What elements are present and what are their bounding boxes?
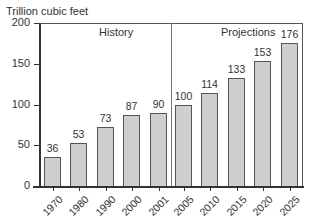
bar-value-label: 36 xyxy=(38,142,68,154)
x-axis xyxy=(33,186,304,188)
history-label: History xyxy=(99,26,133,38)
x-tick-label: 1980 xyxy=(66,193,91,218)
bar-2015 xyxy=(228,78,245,186)
y-tick-label: 0 xyxy=(0,179,30,191)
x-tick-label: 2015 xyxy=(224,193,249,218)
bar-value-label: 114 xyxy=(195,78,225,90)
y-tick-label: 100 xyxy=(0,98,30,110)
x-tick-label: 2025 xyxy=(277,193,302,218)
bar-1990 xyxy=(97,127,114,186)
x-tick-label: 1990 xyxy=(93,193,118,218)
bar-value-label: 53 xyxy=(64,128,94,140)
bar-value-label: 73 xyxy=(91,112,121,124)
x-tick-label: 2005 xyxy=(171,193,196,218)
x-tick-label: 1970 xyxy=(40,193,65,218)
bar-value-label: 133 xyxy=(222,63,252,75)
y-tick-label: 50 xyxy=(0,138,30,150)
bar-value-label: 153 xyxy=(248,46,278,58)
y-tick-label: 200 xyxy=(0,16,30,28)
bar-1970 xyxy=(44,157,61,186)
x-tick-label: 2010 xyxy=(197,193,222,218)
bar-2025 xyxy=(281,43,298,186)
bar-2010 xyxy=(201,93,218,186)
bar-2005 xyxy=(175,105,192,187)
bar-1980 xyxy=(70,143,87,186)
x-tick-label: 2000 xyxy=(119,193,144,218)
x-tick-label: 2001 xyxy=(146,193,171,218)
projections-label: Projections xyxy=(221,26,275,38)
bar-2000 xyxy=(123,115,140,186)
bar-value-label: 100 xyxy=(169,90,199,102)
bar-2001 xyxy=(150,113,167,186)
bar-value-label: 87 xyxy=(117,100,147,112)
y-axis xyxy=(39,23,41,187)
bar-2020 xyxy=(254,61,271,186)
bar-value-label: 176 xyxy=(275,28,305,40)
y-tick-label: 150 xyxy=(0,57,30,69)
x-tick-label: 2020 xyxy=(250,193,275,218)
